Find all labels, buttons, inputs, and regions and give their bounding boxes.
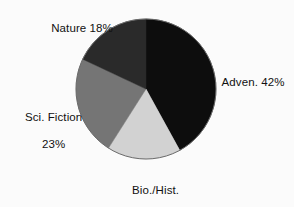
slice-label-sci-fiction-name: Sci. Fiction [25, 111, 82, 123]
slice-label-nature-text: Nature 18% [51, 22, 113, 34]
slice-label-adven-text: Adven. 42% [222, 76, 285, 88]
slice-label-adven: Adven. 42% [209, 62, 285, 103]
slice-label-sci-fiction-value: 23% [42, 138, 65, 150]
slice-label-bio-hist: Bio./Hist. 17% [110, 170, 188, 207]
slice-label-nature: Nature 18% [38, 8, 113, 49]
slice-label-sci-fiction: Sci. Fiction 23% [6, 97, 88, 165]
pie-chart-figure: Adven. 42% Bio./Hist. 17% Sci. Fiction 2… [0, 0, 294, 207]
slice-label-bio-hist-name: Bio./Hist. [132, 184, 179, 196]
